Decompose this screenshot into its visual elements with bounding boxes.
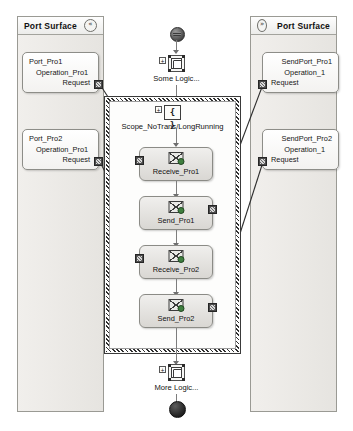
scope-expander[interactable]: + xyxy=(155,106,162,113)
send-message-icon xyxy=(169,201,184,213)
port-name: SendPort_Pro1 xyxy=(269,57,332,68)
port-message: Request xyxy=(269,78,332,89)
port-operation: Operation_1 xyxy=(269,68,332,79)
scope-braces-icon: { } xyxy=(164,105,181,120)
activity-connector-handle[interactable] xyxy=(135,254,144,263)
activity-label: Receive_Pro2 xyxy=(140,265,212,274)
some-logic-shape[interactable]: + Some Logic... xyxy=(148,55,205,83)
port-box-port-pro1[interactable]: Port_Pro1 Operation_Pro1 Request xyxy=(22,52,99,93)
more-logic-shape[interactable]: + More Logic... xyxy=(148,364,205,392)
some-logic-expander[interactable]: + xyxy=(159,57,166,64)
activity-label: Send_Pro1 xyxy=(140,216,212,225)
port-message: Request xyxy=(29,78,92,89)
scope-header: { } Scope_NoTrans/LongRunning xyxy=(105,105,240,131)
port-operation: Operation_Pro1 xyxy=(29,145,92,156)
port-box-sendport-pro1[interactable]: SendPort_Pro1 Operation_1 Request xyxy=(262,52,339,93)
activity-send-pro1[interactable]: Send_Pro1 xyxy=(139,196,213,230)
more-logic-expander[interactable]: + xyxy=(159,366,166,373)
scope-spine-5 xyxy=(176,328,177,354)
port-message: Request xyxy=(29,155,92,166)
port-name: Port_Pro1 xyxy=(29,57,92,68)
more-logic-label: More Logic... xyxy=(148,383,205,392)
orchestration-designer-canvas: Port Surface « » Port Surface Port_Pro1 … xyxy=(0,0,353,431)
end-node[interactable] xyxy=(169,401,186,418)
port-message: Request xyxy=(269,155,332,166)
port-operation: Operation_1 xyxy=(269,145,332,156)
port-operation: Operation_Pro1 xyxy=(29,68,92,79)
port-box-sendport-pro2[interactable]: SendPort_Pro2 Operation_1 Request xyxy=(262,129,339,170)
receive-message-icon xyxy=(169,250,184,262)
start-node[interactable] xyxy=(170,27,185,42)
activity-connector-handle[interactable] xyxy=(135,156,144,165)
flow-line-somelogic-to-scope xyxy=(176,85,177,96)
activity-receive-pro2[interactable]: Receive_Pro2 xyxy=(139,245,213,279)
activity-receive-pro1[interactable]: Receive_Pro1 xyxy=(139,147,213,181)
port-connector-handle[interactable] xyxy=(258,80,267,89)
activity-connector-handle[interactable] xyxy=(208,205,217,214)
port-connector-handle[interactable] xyxy=(94,157,103,166)
port-connector-handle[interactable] xyxy=(94,80,103,89)
activity-label: Send_Pro2 xyxy=(140,314,212,323)
receive-message-icon xyxy=(169,152,184,164)
activity-label: Receive_Pro1 xyxy=(140,167,212,176)
some-logic-label: Some Logic... xyxy=(148,74,205,83)
port-connector-handle[interactable] xyxy=(258,157,267,166)
activity-connector-handle[interactable] xyxy=(208,303,217,312)
activity-send-pro2[interactable]: Send_Pro2 xyxy=(139,294,213,328)
send-message-icon xyxy=(169,299,184,311)
expression-shape-icon xyxy=(168,364,185,381)
port-name: SendPort_Pro2 xyxy=(269,134,332,145)
port-name: Port_Pro2 xyxy=(29,134,92,145)
port-box-port-pro2[interactable]: Port_Pro2 Operation_Pro1 Request xyxy=(22,129,99,170)
flow-arrow xyxy=(173,50,179,54)
expression-shape-icon xyxy=(168,55,185,72)
